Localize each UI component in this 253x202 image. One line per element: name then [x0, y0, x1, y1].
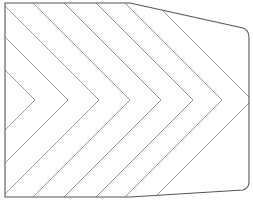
chevron-line	[0, 0, 130, 202]
chevron-line	[0, 0, 161, 202]
shape-outline	[5, 3, 249, 197]
hatched-shape-diagram	[0, 0, 253, 202]
chevron-line	[0, 0, 99, 202]
chevron-hatch-pattern	[0, 0, 252, 202]
chevron-line	[0, 0, 252, 202]
